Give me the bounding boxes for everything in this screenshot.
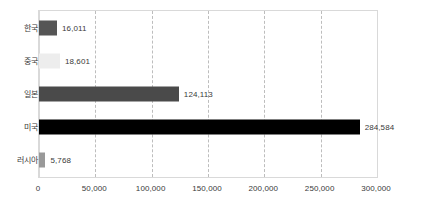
bar-row: 284,584	[39, 111, 377, 144]
category-label: 미국	[0, 121, 38, 132]
category-label: 중국	[0, 55, 38, 66]
x-tick-label: 200,000	[249, 184, 279, 193]
bar	[39, 20, 57, 35]
bar-chart: 16,01118,601124,113284,5845,768 한국중국일본미국…	[0, 0, 423, 209]
bar-row: 5,768	[39, 144, 377, 177]
bar-row: 124,113	[39, 77, 377, 110]
bar-value-label: 124,113	[184, 89, 213, 98]
bar-row: 18,601	[39, 44, 377, 77]
bar-value-label: 18,601	[65, 56, 90, 65]
x-tick-label: 100,000	[136, 184, 166, 193]
category-label: 일본	[0, 88, 38, 99]
x-tick-label: 250,000	[305, 184, 335, 193]
bar	[39, 120, 360, 135]
x-tick-label: 300,000	[361, 184, 391, 193]
bar	[39, 153, 45, 168]
category-label: 한국	[0, 22, 38, 33]
bar-value-label: 5,768	[50, 156, 71, 165]
bar-value-label: 16,011	[62, 23, 86, 32]
bar	[39, 86, 179, 101]
plot-area: 16,01118,601124,113284,5845,768	[38, 10, 378, 178]
x-tick-label: 50,000	[82, 184, 107, 193]
x-tick-label: 150,000	[192, 184, 222, 193]
bar	[39, 53, 60, 68]
x-tick-label: 0	[36, 184, 41, 193]
bar-value-label: 284,584	[365, 123, 395, 132]
bar-row: 16,011	[39, 11, 377, 44]
category-label: 러시아	[0, 154, 38, 165]
